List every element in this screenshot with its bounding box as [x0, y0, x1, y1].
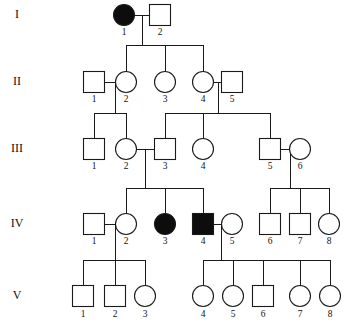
symbol-ii-2-female-unaffected: [116, 72, 137, 93]
number-label-v-8: 8: [328, 309, 333, 319]
symbol-iii-4-female-unaffected: [193, 139, 214, 160]
number-label-v-7: 7: [298, 309, 303, 319]
generation-label-iii: III: [11, 141, 23, 155]
individual-numbers: 12123451234561234567812345678: [81, 27, 333, 319]
symbol-iv-4-male-affected: [193, 214, 214, 235]
number-label-iii-1: 1: [92, 161, 97, 171]
number-label-iii-3: 3: [163, 161, 168, 171]
number-label-iii-5: 5: [268, 161, 273, 171]
pedigree-diagram: 12123451234561234567812345678 IIIIIIIVV: [0, 0, 347, 327]
symbol-iii-5-male-unaffected: [260, 139, 281, 160]
symbol-iii-3-male-unaffected: [155, 139, 176, 160]
symbol-iv-6-male-unaffected: [260, 214, 281, 235]
symbol-i-2-male-unaffected: [150, 5, 171, 26]
number-label-iv-3: 3: [163, 236, 168, 246]
number-label-iv-6: 6: [268, 236, 273, 246]
number-label-v-6: 6: [261, 309, 266, 319]
symbol-v-7-female-unaffected: [290, 286, 311, 307]
number-label-iv-7: 7: [298, 236, 303, 246]
number-label-v-3: 3: [143, 309, 148, 319]
mate-II1-II2: [105, 82, 116, 113]
sib-gen5-left: [83, 260, 145, 286]
number-label-iv-1: 1: [92, 236, 97, 246]
symbol-iv-3-female-affected: [155, 214, 176, 235]
symbol-v-3-female-unaffected: [135, 286, 156, 307]
number-label-ii-1: 1: [92, 94, 97, 104]
generation-label-iv: IV: [11, 216, 24, 230]
number-label-v-5: 5: [231, 309, 236, 319]
number-label-iii-6: 6: [298, 161, 303, 171]
symbol-v-1-male-unaffected: [73, 286, 94, 307]
mate-II4-II5: [214, 82, 222, 113]
generation-label-ii: II: [13, 74, 21, 88]
symbol-v-6-male-unaffected: [253, 286, 274, 307]
symbol-ii-5-male-unaffected: [222, 72, 243, 93]
sib-gen5-right: [203, 260, 330, 286]
symbol-iv-5-female-unaffected: [222, 214, 243, 235]
symbol-ii-4-female-unaffected: [193, 72, 214, 93]
generation-labels: IIIIIIIVV: [11, 7, 24, 302]
number-label-iii-2: 2: [124, 161, 129, 171]
mate-III2-III3: [137, 149, 155, 188]
number-label-ii-5: 5: [230, 94, 235, 104]
mate-IV4-IV5: [214, 224, 222, 260]
number-label-i-1: 1: [122, 27, 127, 37]
symbol-v-4-female-unaffected: [193, 286, 214, 307]
mate-III5-III6: [281, 149, 291, 188]
symbol-iii-1-male-unaffected: [84, 139, 105, 160]
symbol-ii-1-male-unaffected: [84, 72, 105, 93]
number-label-ii-4: 4: [201, 94, 206, 104]
number-label-ii-2: 2: [124, 94, 129, 104]
symbol-v-5-female-unaffected: [223, 286, 244, 307]
number-label-v-1: 1: [81, 309, 86, 319]
symbol-iv-7-male-unaffected: [290, 214, 311, 235]
sib-gen4-left: [126, 188, 203, 214]
number-label-iv-8: 8: [327, 236, 332, 246]
mate-I1-I2: [135, 15, 150, 45]
symbol-i-1-female-affected: [114, 5, 135, 26]
sib-gen2: [126, 45, 203, 72]
number-label-iii-4: 4: [201, 161, 206, 171]
number-label-ii-3: 3: [163, 94, 168, 104]
symbol-iv-1-male-unaffected: [84, 214, 105, 235]
number-label-v-2: 2: [113, 309, 118, 319]
sib-gen4-right: [270, 188, 329, 214]
number-label-v-4: 4: [201, 309, 206, 319]
symbol-v-2-male-unaffected: [105, 286, 126, 307]
generation-label-v: V: [13, 288, 22, 302]
sib-gen3-left: [94, 113, 126, 139]
number-label-iv-5: 5: [230, 236, 235, 246]
mate-IV1-IV2: [105, 224, 116, 260]
symbol-iv-2-female-unaffected: [116, 214, 137, 235]
number-label-iv-2: 2: [124, 236, 129, 246]
symbol-iii-2-female-unaffected: [116, 139, 137, 160]
sib-gen3-right: [165, 113, 270, 139]
symbol-iii-6-female-unaffected: [290, 139, 311, 160]
generation-label-i: I: [15, 7, 19, 21]
symbol-v-8-female-unaffected: [320, 286, 341, 307]
symbol-ii-3-female-unaffected: [155, 72, 176, 93]
symbol-iv-8-female-unaffected: [319, 214, 340, 235]
number-label-i-2: 2: [158, 27, 163, 37]
number-label-iv-4: 4: [201, 236, 206, 246]
pedigree-chart: 12123451234561234567812345678 IIIIIIIVV: [0, 0, 347, 327]
